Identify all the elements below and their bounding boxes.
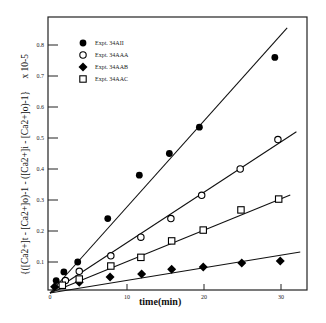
legend-marker: [80, 40, 87, 47]
chart: 0.10.20.30.40.50.60.70.80102030 Expt. 34…: [0, 0, 326, 323]
y-tick-label: 0.5: [37, 135, 45, 141]
data-point: [60, 269, 67, 276]
x-axis-label: time(min): [139, 296, 181, 308]
x-tick-label: 0: [49, 294, 52, 300]
y-tick-label: 0.2: [37, 228, 45, 234]
data-point: [74, 259, 81, 266]
legend-label: Expt. 34AAC: [95, 76, 128, 82]
legend-label: Expt. 34AAB: [95, 64, 128, 70]
data-point: [104, 215, 111, 222]
y-axis-scale: x 10-5: [20, 54, 30, 79]
data-point: [168, 238, 174, 244]
data-point: [200, 227, 206, 233]
legend-marker: [80, 76, 86, 82]
data-point: [108, 253, 114, 259]
data-point: [271, 54, 278, 61]
fit-line-2: [50, 252, 300, 293]
data-point: [166, 150, 173, 157]
data-point: [199, 262, 208, 271]
data-point: [138, 254, 144, 260]
y-tick-label: 0.4: [37, 166, 45, 172]
legend-marker: [79, 63, 88, 72]
x-tick-label: 20: [201, 294, 207, 300]
y-tick-label: 0.6: [37, 104, 45, 110]
data-point: [237, 258, 246, 267]
data-point: [138, 234, 144, 240]
data-point: [106, 272, 115, 281]
legend-label: Expt. 34AAA: [95, 52, 129, 58]
y-tick-label: 0.3: [37, 197, 45, 203]
data-point: [76, 268, 82, 274]
data-point: [136, 172, 143, 179]
x-tick-label: 10: [124, 294, 130, 300]
data-point: [238, 207, 244, 213]
plot-frame: [48, 17, 307, 290]
x-tick-label: 30: [278, 294, 284, 300]
y-tick-label: 0.7: [37, 73, 45, 79]
data-point: [53, 277, 60, 284]
y-axis-label: {([Ca2+]t - [Ca2+]o)-1 - ([Ca2+]i - [Ca2…: [20, 54, 31, 275]
y-axis-label-text: {([Ca2+]t - [Ca2+]o)-1 - ([Ca2+]i - [Ca2…: [20, 91, 31, 275]
legend-label: Expt. 34AII: [95, 40, 124, 46]
data-point: [198, 192, 204, 198]
data-point: [196, 124, 203, 131]
data-point: [275, 196, 281, 202]
data-point: [168, 215, 174, 221]
data-point: [76, 276, 82, 282]
data-point: [276, 257, 285, 266]
data-point: [275, 136, 281, 142]
data-point: [59, 282, 65, 288]
data-point: [108, 263, 114, 269]
y-tick-label: 0.1: [37, 259, 45, 265]
legend-marker: [80, 52, 86, 58]
data-point: [237, 166, 243, 172]
y-tick-label: 0.8: [37, 42, 45, 48]
